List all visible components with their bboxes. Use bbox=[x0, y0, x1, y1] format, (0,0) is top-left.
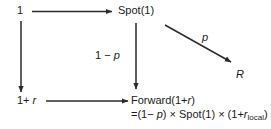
node-spot: Spot(1) bbox=[118, 4, 154, 17]
formula-close: ) bbox=[264, 108, 268, 120]
formula-r-variable: r bbox=[244, 108, 248, 120]
one-minus-p-prefix: 1 − bbox=[95, 49, 114, 61]
one-minus-p-variable: p bbox=[114, 49, 120, 61]
flow-diagram: 1 Spot(1) 1+ r R Forward(1+r) =(1− p) × … bbox=[0, 0, 271, 129]
node-forward: Forward(1+r) =(1− p) × Spot(1) × (1+rloc… bbox=[131, 94, 268, 122]
node-r: R bbox=[236, 68, 244, 81]
node-rate-variable: r bbox=[33, 94, 37, 106]
forward-suffix: ) bbox=[191, 94, 195, 106]
formula-middle: ) × Spot(1) × (1+ bbox=[163, 108, 244, 120]
formula-local-subscript: local bbox=[248, 113, 264, 122]
edge-label-one-minus-p: 1 − p bbox=[95, 49, 120, 62]
node-rate-prefix: 1+ bbox=[17, 94, 33, 106]
formula-open: =(1− bbox=[131, 108, 157, 120]
forward-prefix: Forward(1+ bbox=[131, 94, 188, 106]
forward-title: Forward(1+r) bbox=[131, 94, 195, 106]
edge-label-p: p bbox=[202, 31, 208, 44]
forward-formula: =(1− p) × Spot(1) × (1+rlocal) bbox=[131, 108, 268, 122]
edge-spot-to-r bbox=[165, 25, 231, 62]
node-start: 1 bbox=[17, 4, 23, 17]
node-rate: 1+ r bbox=[17, 94, 36, 107]
